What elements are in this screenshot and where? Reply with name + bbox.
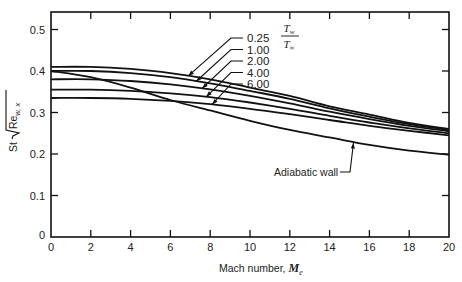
x-tick-label: 2 [88,241,94,253]
x-tick-label: 18 [403,241,415,253]
legend-label-0-25: 0.25 [247,32,269,44]
legend-label-2-00: 2.00 [247,55,269,67]
legend-label-4-00: 4.00 [247,67,269,79]
legend: 0.251.002.004.006.00TwT∞ [188,22,299,104]
y-tick-label: 0 [39,229,45,241]
legend-leader-line [188,38,243,76]
chart: 02468101214161820 00.10.20.30.40.5 0.251… [0,0,462,282]
x-tick-label: 16 [363,241,375,253]
legend-label-6-00: 6.00 [247,78,269,90]
x-tick-label: 0 [48,241,54,253]
x-tick-label: 4 [128,241,134,253]
legend-title-denominator: T∞ [283,38,294,52]
legend-leader-line [196,50,243,82]
legend-label-1-00: 1.00 [247,44,269,56]
series-line-6-00 [51,98,449,135]
legend-title-numerator: Tw [284,22,295,36]
x-tick-label: 6 [167,241,173,253]
x-tick-labels: 02468101214161820 [48,241,455,253]
x-axis-title: Mach number, Me [219,261,303,277]
legend-title-numerator-sub: w [290,28,295,36]
legend-title-denominator-sub: ∞ [290,44,295,52]
svg-text:StRew, x: StRew, x [7,102,22,152]
y-axis-title: StRew, x [6,90,22,152]
y-tick-labels: 00.10.20.30.40.5 [30,24,45,242]
y-tick-label: 0.5 [30,24,45,36]
y-tick-label: 0.2 [30,148,45,160]
y-tick-label: 0.4 [30,65,45,77]
y-tick-label: 0.1 [30,190,45,202]
y-tick-label: 0.3 [30,107,45,119]
x-tick-label: 10 [244,241,256,253]
x-tick-label: 12 [284,241,296,253]
annotation-arrowhead [351,143,355,149]
x-tick-label: 8 [207,241,213,253]
x-tick-label: 20 [443,241,455,253]
x-tick-label: 14 [323,241,335,253]
annotation-adiabatic-wall-label: Adiabatic wall [274,166,338,178]
annotations: Adiabatic wall [274,143,355,178]
